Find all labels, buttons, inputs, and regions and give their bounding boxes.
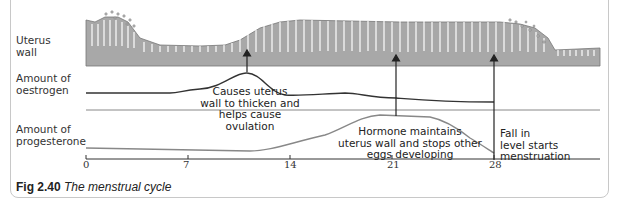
annotation-line: Hormone maintains — [330, 126, 490, 138]
figure-title: The menstrual cycle — [64, 180, 171, 194]
uterus-wall-graphic — [86, 11, 600, 66]
menstrual-cycle-diagram — [0, 0, 619, 206]
annotation-fall: Fall in level starts menstruation — [500, 128, 570, 163]
annotation-line: Causes uterus — [195, 86, 305, 98]
figure-caption: Fig 2.40 The menstrual cycle — [16, 180, 171, 194]
annotation-line: helps cause ovulation — [195, 109, 305, 132]
annotation-oestrogen: Causes uterus wall to thicken and helps … — [195, 86, 305, 132]
tick-14: 14 — [284, 159, 297, 170]
figure-number: Fig 2.40 — [16, 180, 61, 194]
annotation-line: Fall in — [500, 128, 570, 140]
tick-7: 7 — [183, 159, 189, 170]
annotation-progesterone: Hormone maintains uterus wall and stops … — [330, 126, 490, 161]
annotation-line: eggs developing — [330, 149, 490, 161]
tick-0: 0 — [83, 159, 89, 170]
annotation-line: menstruation — [500, 151, 570, 163]
tick-21: 21 — [387, 159, 400, 170]
